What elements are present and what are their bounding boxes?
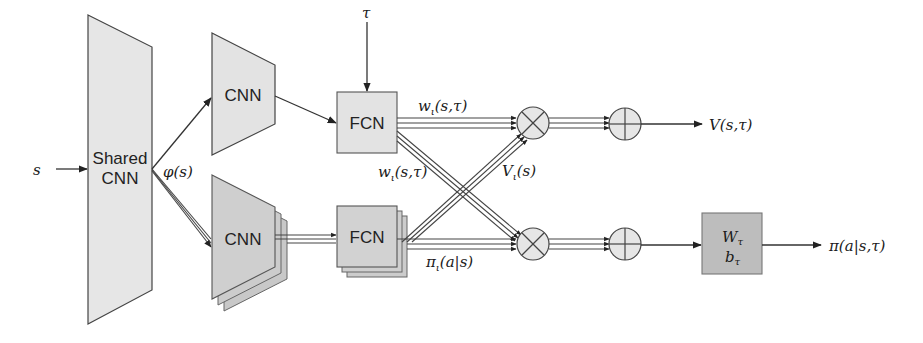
- shared-cnn-label-line2: CNN: [102, 169, 139, 188]
- policy-label-bottom: πι(a|s): [425, 253, 473, 273]
- top-fcn-to-top-multiply: [397, 118, 516, 128]
- features-to-top-cnn-arrow: [152, 98, 211, 169]
- task-input: τ: [362, 4, 371, 91]
- top-multiply-to-sum: [549, 118, 609, 128]
- weights-label-cross: wι(s,τ): [378, 163, 427, 183]
- top-multiply-operator: [517, 107, 549, 139]
- bottom-multiply-operator: [517, 228, 549, 260]
- value-output-label: V(s,τ): [709, 116, 752, 134]
- weights-label-top: wι(s,τ): [418, 97, 467, 117]
- top-cnn-to-fcn-arrow: [275, 96, 336, 123]
- bottom-fcn-to-bottom-multiply: [397, 239, 516, 249]
- bottom-fcn-stack: FCN: [337, 206, 407, 277]
- top-cnn-block: CNN: [212, 33, 275, 155]
- value-label-cross: Vι(s): [502, 162, 536, 182]
- policy-output-label: π(a|s,τ): [828, 237, 885, 255]
- task-label: τ: [362, 4, 371, 22]
- bottom-sum-operator: [609, 228, 641, 260]
- input-label: s: [33, 161, 41, 179]
- top-fcn-to-bottom-multiply: [397, 131, 521, 241]
- top-fcn-block: FCN: [337, 92, 397, 153]
- bottom-cnn-stack: CNN: [212, 175, 287, 311]
- top-fcn-label: FCN: [350, 114, 385, 133]
- top-sum-operator: [609, 108, 641, 140]
- linear-layer-block: Wτ bτ: [702, 213, 762, 274]
- architecture-diagram: s Shared CNN φ(s) CNN CNN τ: [0, 0, 923, 343]
- features-label: φ(s): [163, 163, 193, 181]
- bottom-fcn-label: FCN: [350, 228, 385, 247]
- top-cnn-label: CNN: [225, 86, 262, 105]
- bottom-cnn-label: CNN: [225, 230, 262, 249]
- shared-cnn-block: Shared CNN: [88, 15, 152, 324]
- bottom-multiply-to-sum: [549, 239, 609, 249]
- input-node: s: [33, 161, 87, 179]
- shared-cnn-label-line1: Shared: [93, 149, 148, 168]
